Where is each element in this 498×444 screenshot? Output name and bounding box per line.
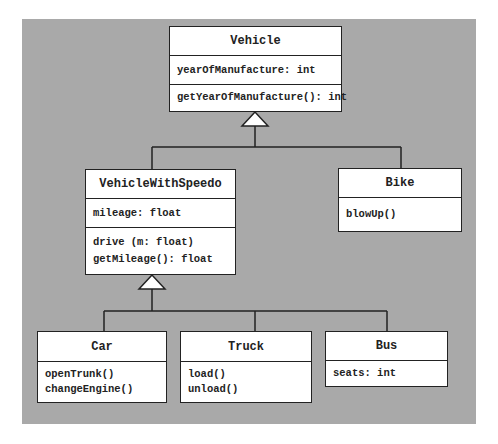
method: blowUp() — [346, 207, 454, 222]
class-name: Car — [38, 332, 166, 362]
method: unload() — [188, 382, 304, 397]
class-bus[interactable]: Bus seats: int — [325, 331, 448, 387]
method: drive (m: float) — [93, 234, 228, 251]
class-name: VehicleWithSpeedo — [86, 170, 235, 199]
class-name: Truck — [181, 332, 311, 362]
attributes-section: mileage: float — [86, 199, 235, 227]
methods-section: load() unload() — [181, 362, 311, 401]
class-name: Bike — [339, 169, 461, 198]
generalization-arrow-icon — [139, 275, 165, 289]
methods-section: drive (m: float) getMileage(): float — [86, 227, 235, 273]
attribute: yearOfManufacture: int — [177, 63, 334, 78]
attribute: mileage: float — [93, 206, 228, 221]
class-vehicle[interactable]: Vehicle yearOfManufacture: int getYearOf… — [169, 26, 342, 112]
attributes-section: yearOfManufacture: int — [170, 56, 341, 84]
generalization-arrow-icon — [242, 112, 268, 126]
attribute: seats: int — [333, 366, 440, 381]
methods-section: openTrunk() changeEngine() — [38, 362, 166, 401]
class-car[interactable]: Car openTrunk() changeEngine() — [37, 331, 167, 403]
attributes-section: seats: int — [326, 361, 447, 385]
class-bike[interactable]: Bike blowUp() — [338, 168, 462, 232]
methods-section: getYearOfManufacture(): int — [170, 84, 341, 110]
method: getMileage(): float — [93, 251, 228, 268]
method: openTrunk() — [45, 367, 159, 382]
generalization-vehicle — [152, 112, 401, 169]
class-truck[interactable]: Truck load() unload() — [180, 331, 312, 403]
class-name: Vehicle — [170, 27, 341, 56]
method: getYearOfManufacture(): int — [177, 90, 334, 105]
method: changeEngine() — [45, 382, 159, 397]
methods-section: blowUp() — [339, 198, 461, 230]
class-name: Bus — [326, 332, 447, 361]
class-vehicle-with-speedo[interactable]: VehicleWithSpeedo mileage: float drive (… — [85, 169, 236, 275]
generalization-vehicle-with-speedo — [104, 275, 387, 331]
method: load() — [188, 367, 304, 382]
